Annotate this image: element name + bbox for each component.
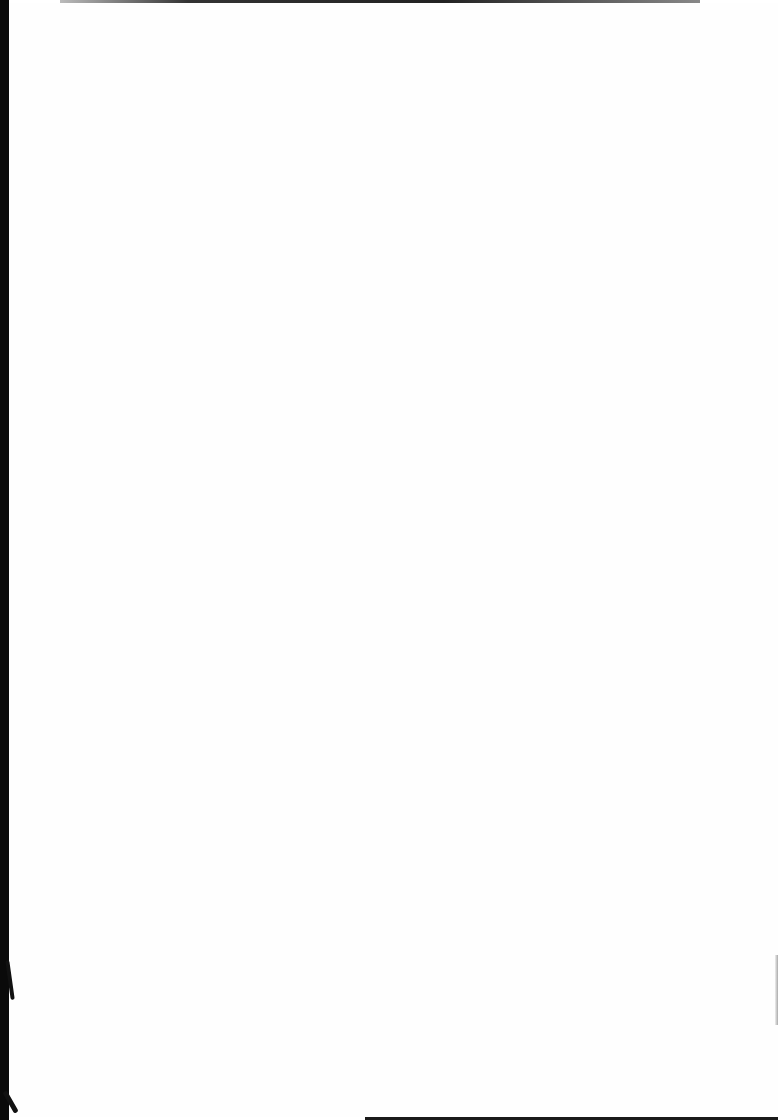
scan-left-border (0, 0, 9, 1120)
scan-top-border (60, 0, 700, 3)
blank-scanned-page (9, 3, 778, 1117)
